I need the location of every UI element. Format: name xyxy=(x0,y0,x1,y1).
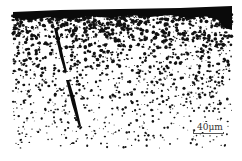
scale-bar-label: 40μm xyxy=(196,122,224,132)
scale-bar-line xyxy=(193,133,224,134)
scale-bar-tick-left xyxy=(193,131,194,134)
micrograph-image xyxy=(0,0,242,161)
